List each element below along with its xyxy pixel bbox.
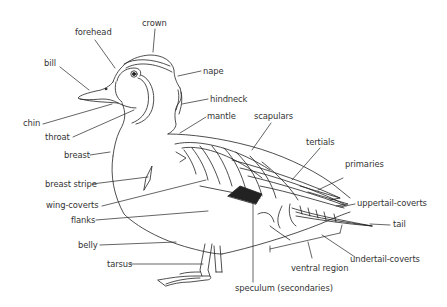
duck-wing [175, 142, 348, 208]
label-crown: crown [142, 18, 167, 28]
label-ventral-region: ventral region [291, 263, 348, 273]
label-flanks: flanks [71, 215, 95, 225]
duck-neck [113, 88, 182, 156]
label-tarsus: tarsus [107, 259, 132, 269]
label-bill: bill [44, 58, 56, 68]
label-belly: belly [78, 240, 98, 250]
label-nape: nape [203, 66, 224, 76]
breast-stripe-mark [144, 166, 152, 190]
label-hindneck: hindneck [210, 94, 247, 104]
label-breast-stripe: breast stripe [45, 179, 97, 189]
label-breast: breast [64, 150, 90, 160]
duck-anatomy-diagram: crown forehead bill nape hindneck mantle… [0, 0, 447, 307]
label-undertail-coverts: undertail-coverts [350, 254, 420, 264]
label-tail: tail [393, 219, 406, 229]
label-scapulars: scapulars [254, 111, 293, 121]
label-chin: chin [23, 118, 40, 128]
label-mantle: mantle [207, 111, 236, 121]
label-tertials: tertials [306, 137, 335, 147]
label-uppertail-coverts: uppertail-coverts [357, 198, 427, 208]
duck-legs [158, 244, 222, 286]
label-throat: throat [45, 132, 70, 142]
duck-head [78, 55, 180, 124]
label-forehead: forehead [75, 27, 112, 37]
label-speculum: speculum (secondaries) [235, 283, 333, 293]
label-primaries: primaries [345, 159, 384, 169]
label-wing-coverts: wing-coverts [46, 200, 99, 210]
